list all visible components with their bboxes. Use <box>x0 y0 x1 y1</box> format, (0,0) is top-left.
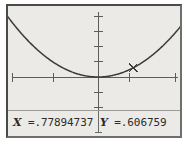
graph-canvas <box>8 6 180 110</box>
trace-x-equals: = <box>21 116 34 129</box>
trace-x-value: .77894737 <box>34 116 93 129</box>
y-axis-overflow-stub <box>98 111 99 133</box>
trace-y-equals: = <box>108 116 121 129</box>
plot-background <box>8 6 180 110</box>
trace-status-bar: X =.77894737 Y =.606759 <box>8 110 180 136</box>
trace-y-variable-label: Y <box>100 116 108 129</box>
graph-plot-area[interactable] <box>8 6 180 110</box>
trace-x-readout: X =.77894737 <box>13 116 93 129</box>
calculator-screen: X =.77894737 Y =.606759 <box>6 4 182 138</box>
y-axis-overflow-tick <box>95 132 102 133</box>
trace-y-readout: Y =.606759 <box>100 116 166 129</box>
trace-y-value: .606759 <box>121 116 167 129</box>
